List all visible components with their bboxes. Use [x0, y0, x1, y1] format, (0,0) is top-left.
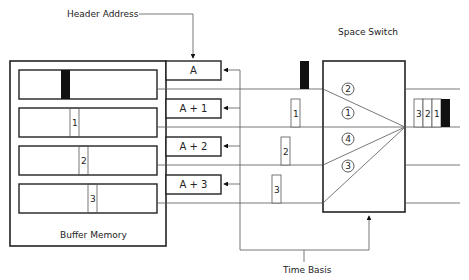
buffer-row-1: 1 — [19, 108, 157, 137]
svg-text:2: 2 — [345, 84, 351, 94]
header-block — [61, 70, 70, 99]
buffer-memory-label: Buffer Memory — [60, 230, 127, 240]
space-switch-box — [323, 61, 405, 212]
address-box-0: A — [166, 61, 221, 80]
buffer-row-3: 3 — [19, 184, 157, 213]
transit-header-block — [300, 61, 309, 89]
space-switch-label: Space Switch — [338, 27, 398, 37]
buffer-cell-1: 1 — [72, 118, 78, 128]
buffer-cell-3: 3 — [90, 194, 96, 204]
svg-text:3: 3 — [274, 185, 280, 195]
transit-cell-3: 3 — [272, 175, 281, 203]
svg-text:1: 1 — [434, 109, 440, 119]
address-box-2: A + 2 — [166, 137, 221, 156]
time-basis-label: Time Basis — [282, 265, 332, 275]
header-address-label: Header Address — [67, 9, 139, 19]
address-box-3: A + 3 — [166, 175, 221, 194]
diagram-canvas: Header Address 1 2 3 Buffer Memory A A +… — [0, 0, 469, 280]
svg-text:2: 2 — [283, 147, 289, 157]
svg-text:2: 2 — [425, 109, 431, 119]
buffer-row-0 — [19, 70, 157, 99]
transit-cell-1: 1 — [291, 99, 300, 127]
svg-text:4: 4 — [345, 134, 351, 144]
header-address-arrow — [139, 14, 193, 58]
svg-text:A: A — [190, 65, 197, 76]
time-basis-to-switch — [240, 216, 369, 250]
buffer-row-2: 2 — [19, 146, 157, 175]
svg-text:3: 3 — [416, 109, 422, 119]
output-stream: 3 2 1 — [414, 99, 450, 127]
buffer-cell-2: 2 — [81, 156, 87, 166]
svg-text:1: 1 — [345, 108, 351, 118]
svg-text:A + 2: A + 2 — [180, 141, 208, 152]
svg-text:3: 3 — [345, 161, 351, 171]
svg-text:A + 1: A + 1 — [180, 103, 208, 114]
transit-cell-2: 2 — [281, 137, 290, 165]
output-header-block — [441, 99, 450, 127]
svg-text:A + 3: A + 3 — [180, 179, 208, 190]
svg-text:1: 1 — [293, 109, 299, 119]
address-box-1: A + 1 — [166, 99, 221, 118]
